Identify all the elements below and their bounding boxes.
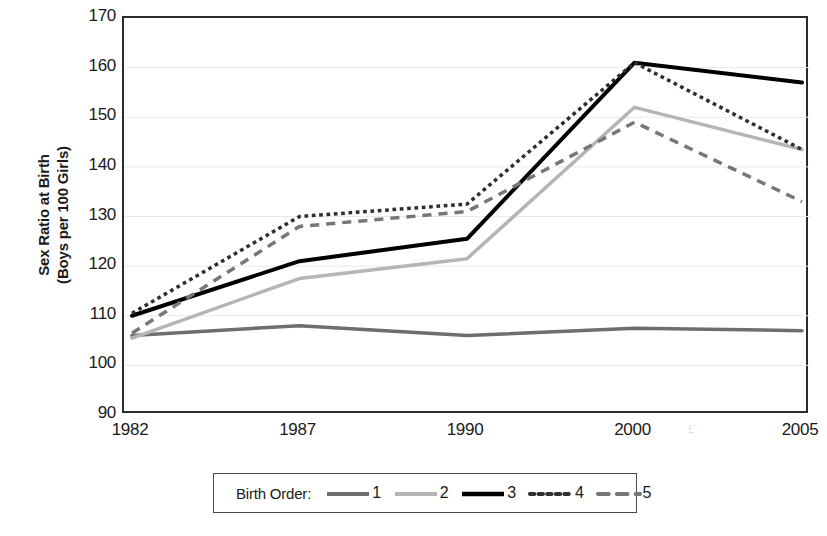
y-tick-label: 130: [70, 206, 116, 223]
y-tick-label: 120: [70, 255, 116, 272]
gridlines: [124, 68, 810, 366]
y-tick-label: 170: [70, 7, 116, 24]
y-tick-label: 110: [70, 305, 116, 322]
x-tick-label: 2000: [588, 420, 678, 440]
legend-entry-3: 3: [460, 485, 516, 501]
plot-svg: [124, 18, 810, 415]
series-line-2: [132, 107, 802, 338]
y-tick-label: 100: [70, 354, 116, 371]
series-line-1: [132, 326, 802, 336]
legend-entry-1: 1: [325, 485, 381, 501]
chart-legend: Birth Order: 12345: [213, 473, 637, 513]
legend-entry-5: 5: [596, 485, 652, 501]
legend-label: 1: [372, 485, 381, 501]
scan-artifact: £¨: [688, 423, 704, 436]
plot-area: [122, 16, 808, 413]
legend-title: Birth Order:: [236, 485, 311, 502]
y-tick-label: 140: [70, 156, 116, 173]
legend-label: 3: [507, 485, 516, 501]
legend-swatch-5-icon: [596, 486, 642, 500]
x-tick-label: 1982: [85, 420, 175, 440]
legend-label: 4: [575, 485, 584, 501]
legend-label: 2: [440, 485, 449, 501]
y-tick-label: 150: [70, 106, 116, 123]
x-tick-label: 1990: [420, 420, 510, 440]
series-lines: [132, 63, 802, 338]
x-tick-label: 1987: [253, 420, 343, 440]
x-tick-label: 2005: [755, 420, 827, 440]
series-line-4: [132, 63, 802, 314]
y-axis-tick-labels: 17016015014013012011010090: [60, 0, 116, 430]
legend-swatch-1-icon: [325, 486, 371, 500]
y-tick-label: 90: [70, 404, 116, 421]
legend-swatch-2-icon: [393, 486, 439, 500]
legend-swatch-3-icon: [460, 486, 506, 500]
legend-swatch-4-icon: [528, 486, 574, 500]
legend-entry-4: 4: [528, 485, 584, 501]
series-line-3: [132, 63, 802, 316]
chart-figure: Sex Ratio at Birth (Boys per 100 Girls) …: [0, 0, 827, 536]
legend-entries: 12345: [325, 485, 663, 501]
y-tick-label: 160: [70, 57, 116, 74]
legend-label: 5: [643, 485, 652, 501]
legend-entry-2: 2: [393, 485, 449, 501]
